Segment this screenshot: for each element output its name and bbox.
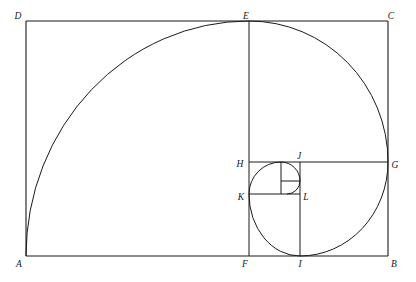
subdivision-lines xyxy=(249,21,388,256)
arc-J-to-inner xyxy=(281,162,300,181)
arc-A-to-E xyxy=(26,21,249,256)
arc-E-to-G xyxy=(249,21,388,162)
arc-K-to-J xyxy=(249,162,281,194)
arc-I-to-K xyxy=(249,194,300,256)
label-E: E xyxy=(242,11,249,21)
arc-G-to-I xyxy=(300,162,388,256)
label-D: D xyxy=(14,11,22,21)
label-J: J xyxy=(297,151,302,161)
label-A: A xyxy=(15,259,22,269)
golden-spiral-figure: D E C H J G K L A F I B xyxy=(0,0,416,282)
label-F: F xyxy=(241,259,248,269)
label-C: C xyxy=(388,11,395,21)
figure-canvas: D E C H J G K L A F I B xyxy=(0,0,416,282)
label-L: L xyxy=(302,192,308,202)
label-G: G xyxy=(392,160,399,170)
label-H: H xyxy=(236,159,245,169)
label-K: K xyxy=(237,192,245,202)
outer-rectangle xyxy=(26,21,388,256)
label-B: B xyxy=(391,259,397,269)
golden-spiral xyxy=(26,21,388,256)
arc-inner-last xyxy=(287,181,300,194)
vertex-labels: D E C H J G K L A F I B xyxy=(14,11,399,269)
label-I: I xyxy=(297,259,302,269)
